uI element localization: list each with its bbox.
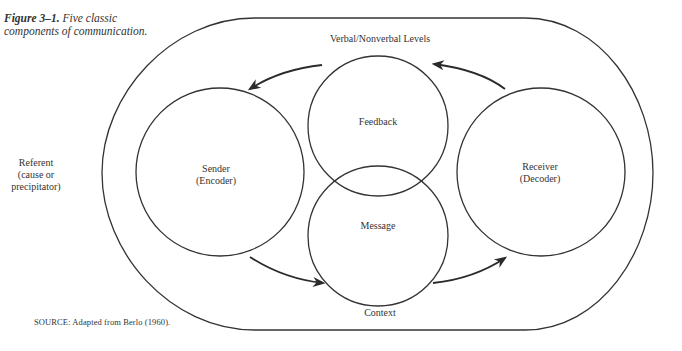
message-circle [308,166,448,306]
verbal-nonverbal-label: Verbal/Nonverbal Levels [330,33,430,44]
feedback-label: Feedback [359,116,397,127]
context-label: Context [364,307,396,318]
arrow-message-to-receiver [433,258,505,283]
arrow-feedback-to-sender [250,65,322,89]
message-label: Message [361,220,397,231]
communication-diagram: Verbal/Nonverbal Levels Context Referent… [0,0,682,351]
receiver-circle [457,88,625,256]
referent-label: Referent [19,157,54,168]
sender-label: Sender [202,163,230,174]
referent-sublabel-1: (cause or [18,169,55,181]
receiver-sublabel: (Decoder) [520,173,561,185]
source-note: SOURCE: Adapted from Berlo (1960). [34,317,170,327]
receiver-label: Receiver [522,161,558,172]
context-boundary [102,18,653,330]
arrow-receiver-to-feedback [434,64,505,89]
referent-sublabel-2: precipitator) [11,181,60,193]
sender-sublabel: (Encoder) [196,175,236,187]
